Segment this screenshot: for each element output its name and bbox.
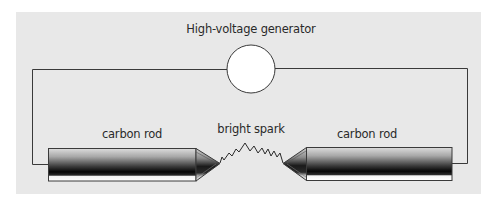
right-carbon-rod — [283, 148, 452, 181]
generator-label: High-voltage generator — [186, 22, 315, 36]
left-rod-label: carbon rod — [102, 127, 162, 141]
spark-label: bright spark — [217, 122, 284, 136]
left-carbon-rod — [49, 149, 221, 182]
spark-zigzag-icon — [220, 143, 283, 163]
generator-icon — [227, 45, 275, 93]
right-rod-label: carbon rod — [337, 127, 397, 141]
